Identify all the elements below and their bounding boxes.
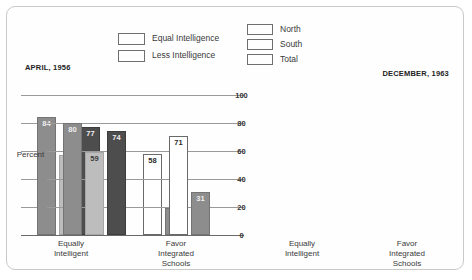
bar-value-label: 74 bbox=[108, 134, 125, 142]
bar-value-label: 59 bbox=[86, 155, 103, 163]
axis-tick-80: 80 bbox=[218, 119, 265, 128]
era-label-right: DECEMBER, 1963 bbox=[382, 69, 449, 78]
bar-north-equally-intelligent: 80 bbox=[63, 123, 82, 235]
caption-line: Intelligent bbox=[259, 249, 345, 259]
axis-unit-label: Percent bbox=[7, 150, 54, 159]
legend-label-total: Total bbox=[280, 55, 298, 64]
legend-label-north: North bbox=[280, 25, 301, 34]
chart-frame: APRIL, 1956 Equal Intelligence Less Inte… bbox=[6, 6, 464, 270]
group-caption-equally-intelligent-left: Equally Intelligent bbox=[28, 239, 114, 259]
bar-north-favor-integrated: 71 bbox=[169, 136, 188, 235]
group-caption-equally-intelligent-right: Equally Intelligent bbox=[259, 239, 345, 259]
legend-swatch-equal-intelligence bbox=[118, 33, 145, 45]
legend-swatch-north bbox=[247, 24, 273, 35]
axis-tick-20: 20 bbox=[218, 203, 265, 212]
bar-south-equally-intelligent: 59 bbox=[85, 152, 104, 235]
bar-value-label: 31 bbox=[192, 195, 209, 203]
legend-swatch-less-intelligence bbox=[118, 50, 145, 62]
legend-item-less-intelligence: Less Intelligence bbox=[118, 49, 219, 62]
group-caption-favor-integrated-left: Favor Integrated Schools bbox=[133, 239, 219, 269]
caption-line: Favor bbox=[133, 239, 219, 249]
legend-swatch-total bbox=[247, 54, 273, 65]
caption-line: Schools bbox=[133, 259, 219, 269]
axis-tick-0: 0 bbox=[218, 231, 265, 240]
caption-line: Equally bbox=[259, 239, 345, 249]
legend-label-less-intelligence: Less Intelligence bbox=[152, 51, 215, 60]
legend-item-north: North bbox=[247, 23, 302, 36]
legend-label-equal-intelligence: Equal Intelligence bbox=[152, 34, 219, 43]
caption-line: Integrated bbox=[364, 249, 450, 259]
era-label-left: APRIL, 1956 bbox=[25, 63, 71, 72]
caption-line: Integrated bbox=[133, 249, 219, 259]
legend-fill-type: Equal Intelligence Less Intelligence bbox=[118, 32, 219, 66]
legend-swatch-south bbox=[247, 39, 273, 50]
plot-area-right: 8059747131 bbox=[47, 95, 244, 235]
bar-total-equally-intelligent: 74 bbox=[107, 131, 126, 235]
axis-tick-100: 100 bbox=[218, 91, 265, 100]
legend-item-total: Total bbox=[247, 53, 302, 66]
group-caption-favor-integrated-right: Favor Integrated Schools bbox=[364, 239, 450, 269]
gridline-0 bbox=[47, 235, 244, 236]
caption-line: Schools bbox=[364, 259, 450, 269]
legend-item-equal-intelligence: Equal Intelligence bbox=[118, 32, 219, 45]
axis-tick-40: 40 bbox=[218, 175, 265, 184]
percent-axis: 100806040200 bbox=[218, 95, 265, 247]
axis-tick-60: 60 bbox=[218, 147, 265, 156]
gridline-100 bbox=[47, 95, 244, 96]
caption-line: Intelligent bbox=[28, 249, 114, 259]
legend-item-south: South bbox=[247, 38, 302, 51]
legend-label-south: South bbox=[280, 40, 302, 49]
caption-line: Favor bbox=[364, 239, 450, 249]
bar-value-label: 71 bbox=[170, 139, 187, 147]
legend-region: North South Total bbox=[247, 23, 302, 68]
caption-line: Equally bbox=[28, 239, 114, 249]
bar-south-favor-integrated: 31 bbox=[191, 192, 210, 235]
bar-value-label: 80 bbox=[64, 126, 81, 134]
